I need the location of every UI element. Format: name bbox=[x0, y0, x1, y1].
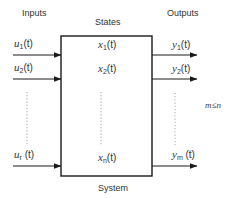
input-label-u2: u2(t) bbox=[14, 61, 33, 74]
inputs-heading: Inputs bbox=[22, 8, 47, 18]
output-label-y1: y1(t) bbox=[172, 38, 190, 51]
states-heading: States bbox=[95, 17, 121, 27]
input-label-ur: ur (t) bbox=[14, 148, 34, 161]
diagram-canvas bbox=[0, 0, 234, 198]
state-label-x2: x2(t) bbox=[98, 62, 116, 75]
input-label-u1: u1(t) bbox=[14, 37, 33, 50]
state-label-x1: x1(t) bbox=[98, 38, 116, 51]
output-label-y2: y2(t) bbox=[172, 62, 190, 75]
output-label-ym: ym (t) bbox=[172, 148, 195, 161]
constraint-note: m≤n bbox=[205, 100, 221, 110]
state-label-xn: xn(t) bbox=[98, 151, 116, 164]
outputs-heading: Outputs bbox=[167, 8, 199, 18]
system-label: System bbox=[98, 183, 128, 193]
